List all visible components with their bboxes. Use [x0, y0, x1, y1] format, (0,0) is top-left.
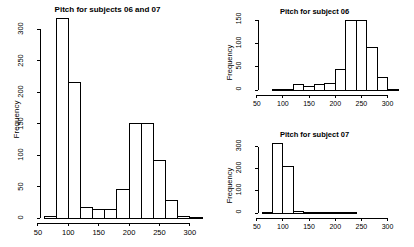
histogram-bar	[166, 200, 178, 218]
panel-title-subject-06: Pitch for subject 06	[215, 7, 414, 16]
histogram-svg-subject-07	[262, 143, 398, 213]
histogram-svg-combined	[44, 18, 202, 218]
y-tick-label: 0	[235, 76, 242, 102]
y-tick-label: 150	[235, 6, 242, 32]
histogram-bar	[56, 18, 68, 218]
histogram-bar	[293, 84, 303, 90]
x-tick-label: 200	[114, 228, 144, 237]
y-tick-label: 300	[16, 16, 25, 42]
panel-title-subject-07: Pitch for subject 07	[215, 130, 414, 139]
plot-area-subject-07: 010020030050100150200250300	[262, 143, 398, 213]
histogram-bar	[272, 143, 282, 213]
histogram-bar	[293, 212, 303, 213]
y-tick-label: 100	[16, 142, 25, 168]
panel-pitch-subject-06: Pitch for subject 06 Frequency 050100150…	[215, 0, 414, 124]
histogram-bar	[325, 84, 335, 90]
x-tick-label: 100	[53, 228, 83, 237]
histogram-bar	[44, 217, 56, 218]
histogram-bar	[190, 217, 202, 218]
histogram-bar	[68, 83, 80, 218]
x-tick-label: 250	[144, 228, 174, 237]
histogram-bar	[356, 20, 366, 90]
histogram-bar	[346, 20, 356, 90]
y-tick-label: 250	[16, 47, 25, 73]
panel-title-combined: Pitch for subjects 06 and 07	[0, 5, 215, 14]
x-tick-label: 50	[23, 228, 53, 237]
plot-area-subject-06: 05010015050100150200250300	[262, 20, 398, 90]
panel-pitch-subject-07: Pitch for subject 07 Frequency 010020030…	[215, 124, 414, 247]
histogram-bar	[153, 161, 165, 218]
histogram-bar	[93, 210, 105, 218]
y-tick-label: 150	[16, 110, 25, 136]
y-axis-label-subject-07: Frequency	[225, 156, 234, 216]
histogram-figure: Pitch for subjects 06 and 07 Frequency 0…	[0, 0, 414, 247]
x-tick-label: 300	[373, 223, 403, 230]
histogram-bar	[304, 86, 314, 90]
y-tick-label: 100	[235, 29, 242, 55]
x-tick-label: 300	[175, 228, 205, 237]
histogram-bar	[117, 189, 129, 218]
histogram-bar	[367, 48, 377, 90]
histogram-bar	[80, 208, 92, 218]
histogram-bar	[178, 217, 190, 218]
histogram-bar	[377, 77, 387, 90]
x-tick-label: 150	[84, 228, 114, 237]
x-tick-label: 300	[373, 100, 403, 107]
panel-pitch-combined: Pitch for subjects 06 and 07 Frequency 0…	[0, 0, 215, 247]
y-tick-label: 0	[16, 205, 25, 231]
y-axis-label-subject-06: Frequency	[225, 33, 234, 93]
histogram-bar	[304, 212, 314, 213]
histogram-bar	[105, 210, 117, 218]
histogram-bar	[314, 85, 324, 90]
plot-area-combined: 05010015020025030050100150200250300	[44, 18, 202, 218]
y-tick-label: 200	[16, 79, 25, 105]
histogram-bar	[335, 70, 345, 90]
y-tick-label: 50	[16, 173, 25, 199]
histogram-bar	[141, 123, 153, 218]
y-tick-label: 300	[235, 132, 242, 158]
histogram-svg-subject-06	[262, 20, 398, 90]
histogram-bar	[283, 167, 293, 213]
histogram-bar	[283, 89, 293, 90]
y-tick-label: 50	[235, 52, 242, 78]
histogram-bar	[129, 123, 141, 218]
histogram-bar	[388, 89, 398, 90]
